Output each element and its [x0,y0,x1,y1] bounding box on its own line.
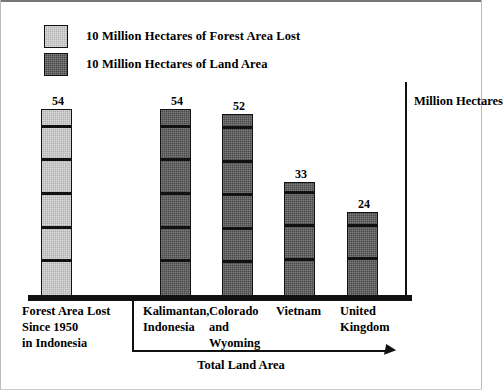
bar-value-vietnam: 33 [281,167,321,182]
bar-value-forest-lost-indonesia: 54 [38,94,78,109]
figure-left-border [0,0,1,390]
category-label-united-kingdom: United Kingdom [340,303,390,335]
x-axis-caption: Total Land Area [0,358,482,373]
legend-item-land-area: 10 Million Hectares of Land Area [44,53,268,76]
bar-united-kingdom [347,212,378,296]
legend-swatch-forest-lost-icon [44,25,68,48]
figure-right-border [481,0,482,390]
bar-value-united-kingdom: 24 [344,197,384,212]
bar-colorado-wyoming [222,114,253,296]
legend-swatch-land-area-icon [44,53,68,76]
y-axis-label: Million Hectares [414,93,503,109]
bar-forest-lost-indonesia [41,109,72,296]
bar-value-colorado-wyoming: 52 [219,99,259,114]
total-land-area-arrow-icon [384,344,397,357]
total-land-area-bracket-vertical [132,300,134,352]
figure-top-border [0,0,482,2]
bar-kalimantan-indonesia [160,109,191,296]
legend-label-land-area: 10 Million Hectares of Land Area [86,57,268,72]
category-label-kalimantan-indonesia: Kalimantan, Indonesia [143,303,209,335]
bar-vietnam [284,182,315,296]
category-label-colorado-wyoming: Colorado and Wyoming [209,303,260,351]
y-axis-line [405,82,407,296]
category-label-forest-lost-indonesia: Forest Area Lost Since 1950 in Indonesia [22,303,110,351]
x-axis-baseline [28,295,412,301]
legend-label-forest-lost: 10 Million Hectares of Forest Area Lost [86,29,300,44]
legend-item-forest-lost: 10 Million Hectares of Forest Area Lost [44,25,300,48]
bar-value-kalimantan-indonesia: 54 [157,94,197,109]
total-land-area-bracket-horizontal [132,350,390,352]
category-label-vietnam: Vietnam [276,303,321,319]
